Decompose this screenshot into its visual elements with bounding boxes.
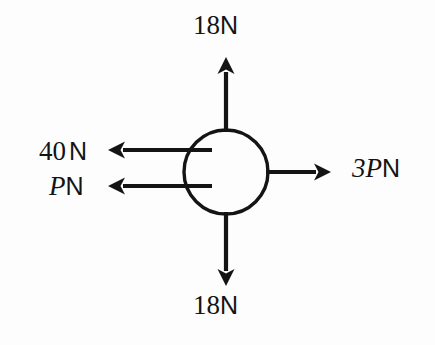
- body-circle: [184, 130, 268, 214]
- force-label-left-upper-unit: N: [69, 137, 87, 165]
- force-label-right-unit: N: [382, 154, 400, 182]
- force-arrow-down: [218, 212, 235, 286]
- force-arrow-left-lower: [108, 178, 212, 195]
- force-label-left-lower-variable: P: [49, 171, 66, 201]
- force-label-up: 18N: [193, 12, 238, 39]
- force-label-left-lower-unit: N: [66, 172, 84, 200]
- force-label-down: 18N: [193, 292, 238, 319]
- force-label-down-unit: N: [220, 291, 238, 319]
- force-label-down-number: 18: [193, 290, 220, 320]
- force-arrow-up: [218, 57, 235, 132]
- force-label-right-number: 3: [352, 153, 366, 183]
- force-label-right-variable: P: [366, 153, 383, 183]
- force-label-left-upper: 40N: [39, 138, 87, 165]
- force-label-left-upper-number: 40: [39, 136, 66, 166]
- force-label-right: 3PN: [352, 155, 400, 182]
- force-label-up-number: 18: [193, 10, 220, 40]
- force-diagram-figure: 18N 18N 40N PN 3PN: [0, 0, 435, 345]
- force-label-up-unit: N: [220, 11, 238, 39]
- force-label-left-lower: PN: [49, 173, 84, 200]
- force-arrow-right: [266, 164, 331, 181]
